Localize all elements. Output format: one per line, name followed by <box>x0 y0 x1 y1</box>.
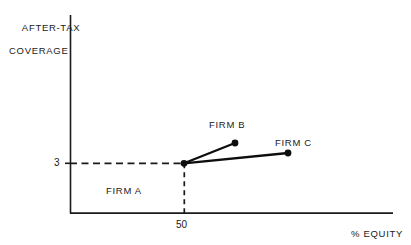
annotation-firm-a: FIRM A <box>106 185 142 197</box>
annotation-firm-c: FIRM C <box>275 137 312 149</box>
chart-figure: AFTER-TAX COVERAGE % EQUITY 3 50 FIRM A … <box>0 0 411 245</box>
x-tick-label-50: 50 <box>176 219 187 231</box>
vertex-marker <box>181 160 188 167</box>
y-tick-label-3: 3 <box>54 157 60 169</box>
firm-c-endpoint-marker <box>285 150 292 157</box>
annotation-firm-b: FIRM B <box>209 119 245 131</box>
x-axis-label: % EQUITY <box>351 228 403 240</box>
y-axis-label: AFTER-TAX COVERAGE <box>9 10 80 79</box>
y-axis-label-line1: AFTER-TAX <box>22 22 80 33</box>
y-axis-label-line2: COVERAGE <box>9 45 80 57</box>
firm-b-endpoint-marker <box>232 140 239 147</box>
